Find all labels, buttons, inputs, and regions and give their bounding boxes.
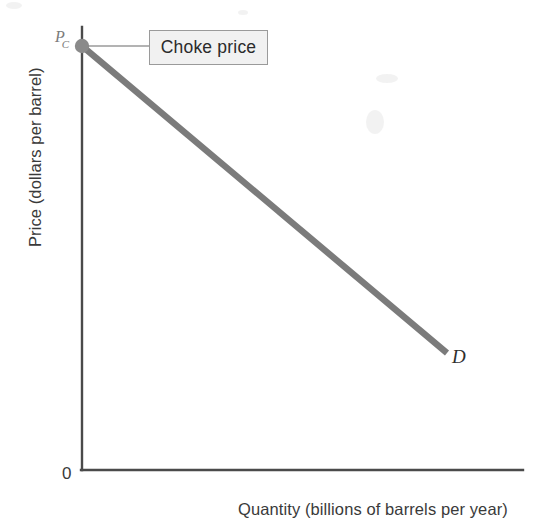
choke-price-symbol-subscript: C (62, 38, 69, 50)
demand-curve-label: D (452, 346, 466, 368)
demand-curve-figure: PC Choke price D 0 Price (dollars per ba… (0, 0, 557, 529)
x-axis-title: Quantity (billions of barrels per year) (238, 500, 508, 519)
choke-price-symbol: PC (55, 29, 72, 48)
plot-canvas (0, 0, 557, 529)
origin-label: 0 (62, 464, 71, 484)
choke-price-callout-label: Choke price (161, 37, 257, 58)
demand-curve (82, 46, 447, 353)
y-axis-title: Price (dollars per barrel) (26, 7, 52, 247)
choke-price-point (75, 39, 89, 53)
choke-price-callout: Choke price (149, 30, 268, 65)
